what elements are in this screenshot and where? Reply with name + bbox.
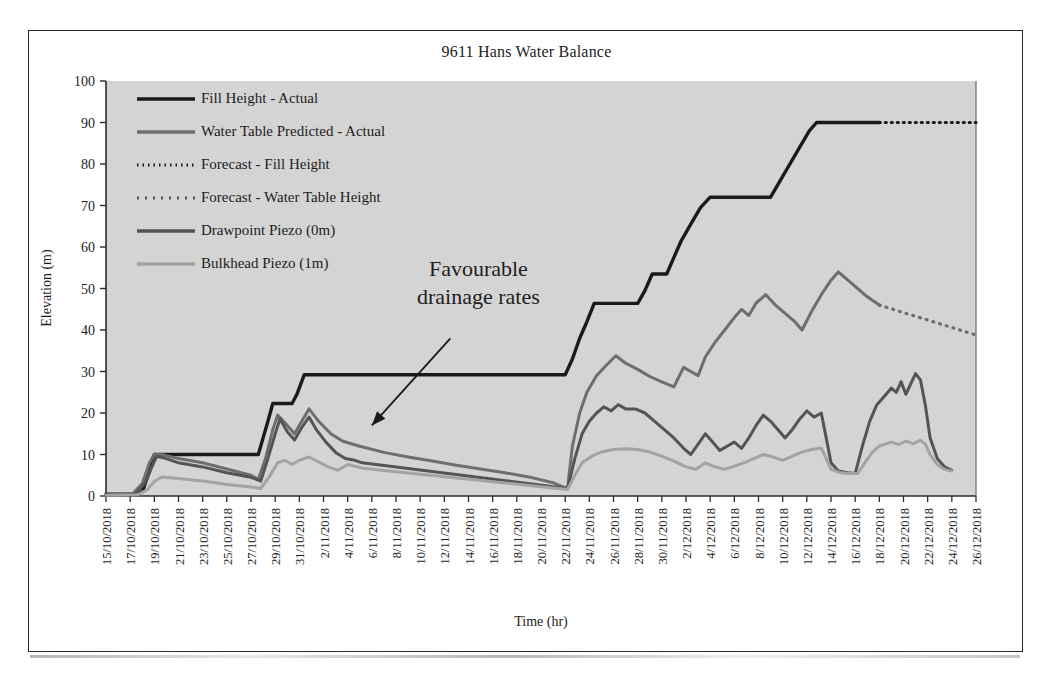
x-axis-ticks: 15/10/201817/10/201819/10/201821/10/2018… (100, 496, 984, 565)
y-tick-label: 20 (81, 406, 95, 421)
y-axis-title: Elevation (m) (39, 249, 55, 327)
x-tick-label: 14/11/2018 (463, 508, 477, 564)
chart-plot: 0102030405060708090100 15/10/201817/10/2… (29, 31, 1024, 653)
x-tick-label: 25/10/2018 (221, 508, 235, 565)
x-tick-label: 4/12/2018 (704, 508, 718, 559)
x-tick-label: 6/11/2018 (366, 508, 380, 558)
x-tick-label: 24/12/2018 (946, 508, 960, 565)
plot-background (106, 81, 976, 496)
scan-artifact-line (30, 655, 1020, 658)
x-tick-label: 10/11/2018 (414, 508, 428, 564)
x-tick-label: 2/11/2018 (318, 508, 332, 558)
x-tick-label: 16/11/2018 (487, 508, 501, 564)
y-tick-label: 100 (74, 74, 95, 89)
x-tick-label: 31/10/2018 (293, 508, 307, 565)
y-tick-label: 80 (81, 157, 95, 172)
x-tick-label: 26/12/2018 (970, 508, 984, 565)
x-tick-label: 8/11/2018 (390, 508, 404, 558)
figure-container: 9611 Hans Water Balance 0102030405060708… (0, 0, 1051, 684)
y-tick-label: 90 (81, 116, 95, 131)
legend-label: Fill Height - Actual (201, 90, 318, 106)
x-tick-label: 19/10/2018 (148, 508, 162, 565)
y-axis-ticks: 0102030405060708090100 (74, 74, 106, 504)
annotation-line-1: Favourable (429, 256, 528, 281)
x-tick-label: 18/12/2018 (873, 508, 887, 565)
x-tick-label: 12/11/2018 (438, 508, 452, 564)
y-tick-label: 0 (88, 489, 95, 504)
x-tick-label: 26/11/2018 (608, 508, 622, 564)
x-tick-label: 16/12/2018 (849, 508, 863, 565)
x-tick-label: 21/10/2018 (173, 508, 187, 565)
annotation-line-2: drainage rates (417, 284, 540, 309)
y-tick-label: 60 (81, 240, 95, 255)
y-tick-label: 30 (81, 365, 95, 380)
x-tick-label: 18/11/2018 (511, 508, 525, 564)
y-tick-label: 50 (81, 282, 95, 297)
x-tick-label: 20/12/2018 (898, 508, 912, 565)
y-tick-label: 70 (81, 199, 95, 214)
x-tick-label: 10/12/2018 (777, 508, 791, 565)
x-axis-title: Time (hr) (514, 614, 568, 630)
x-tick-label: 30/11/2018 (656, 508, 670, 564)
x-tick-label: 28/11/2018 (632, 508, 646, 564)
x-tick-label: 17/10/2018 (124, 508, 138, 565)
legend-label: Drawpoint Piezo (0m) (201, 222, 335, 239)
y-tick-label: 10 (81, 448, 95, 463)
x-tick-label: 27/10/2018 (245, 508, 259, 565)
legend-label: Forecast - Water Table Height (201, 189, 381, 205)
legend-label: Bulkhead Piezo (1m) (201, 255, 328, 272)
x-tick-label: 14/12/2018 (825, 508, 839, 565)
x-tick-label: 4/11/2018 (342, 508, 356, 558)
x-tick-label: 22/12/2018 (922, 508, 936, 565)
chart-frame: 9611 Hans Water Balance 0102030405060708… (28, 30, 1023, 652)
x-tick-label: 12/12/2018 (801, 508, 815, 565)
x-tick-label: 2/12/2018 (680, 508, 694, 559)
x-tick-label: 29/10/2018 (269, 508, 283, 565)
legend-label: Water Table Predicted - Actual (201, 123, 385, 139)
x-tick-label: 8/12/2018 (753, 508, 767, 559)
y-tick-label: 40 (81, 323, 95, 338)
x-tick-label: 6/12/2018 (728, 508, 742, 559)
x-tick-label: 24/11/2018 (583, 508, 597, 564)
legend-label: Forecast - Fill Height (201, 156, 331, 172)
x-tick-label: 23/10/2018 (197, 508, 211, 565)
x-tick-label: 20/11/2018 (535, 508, 549, 564)
x-tick-label: 15/10/2018 (100, 508, 114, 565)
x-tick-label: 22/11/2018 (559, 508, 573, 564)
